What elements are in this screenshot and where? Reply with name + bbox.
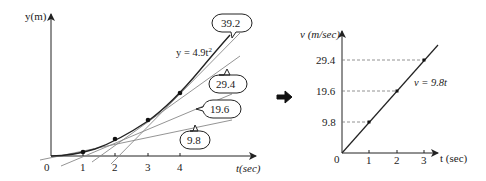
right-y-label: v (m/sec) xyxy=(300,28,340,41)
curve-equation-label: y = 4.9t2 xyxy=(176,46,212,58)
callout-39-2: 39.2 xyxy=(212,14,252,38)
right-y-tick-29-4: 29.4 xyxy=(316,54,336,66)
callout-9-8: 9.8 xyxy=(180,125,210,149)
right-arrow-icon xyxy=(277,91,292,103)
left-y-label: y(m) xyxy=(25,10,47,23)
left-chart: y(m) t(sec) 0 1 2 3 4 y = 4.9t2 39.2 29.… xyxy=(25,10,261,175)
svg-text:39.2: 39.2 xyxy=(221,17,240,29)
svg-text:9.8: 9.8 xyxy=(187,134,201,146)
left-x-tick-4: 4 xyxy=(177,161,183,173)
svg-text:19.6: 19.6 xyxy=(210,103,230,115)
left-origin-label: 0 xyxy=(44,161,50,173)
right-x-tick-1: 1 xyxy=(366,154,372,166)
callout-19-6: 19.6 xyxy=(196,100,241,118)
right-x-tick-3: 3 xyxy=(421,154,427,166)
right-y-tick-9-8: 9.8 xyxy=(322,116,336,128)
left-x-label: t(sec) xyxy=(236,162,261,175)
right-chart: v (m/sec) t (sec) 0 1 2 3 9.8 19.6 29.4 … xyxy=(300,28,468,166)
left-x-tick-1: 1 xyxy=(80,161,86,173)
callout-29-4: 29.4 xyxy=(209,69,247,93)
diagram-canvas: y(m) t(sec) 0 1 2 3 4 y = 4.9t2 39.2 29.… xyxy=(0,0,486,181)
right-x-tick-2: 2 xyxy=(394,154,400,166)
right-y-tick-19-6: 19.6 xyxy=(316,85,336,97)
right-x-label: t (sec) xyxy=(440,152,468,165)
dashed-guides xyxy=(342,60,424,122)
svg-text:29.4: 29.4 xyxy=(216,78,236,90)
line-equation-label: v = 9.8t xyxy=(414,77,448,88)
left-x-tick-3: 3 xyxy=(145,161,151,173)
left-x-tick-2: 2 xyxy=(112,161,118,173)
curve-points xyxy=(81,91,183,155)
right-origin-label: 0 xyxy=(334,153,340,165)
